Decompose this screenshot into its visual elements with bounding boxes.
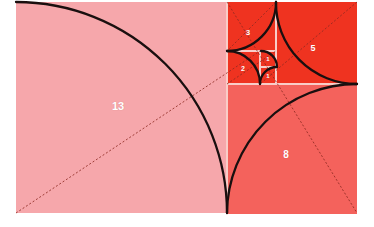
label-5: 5 [310, 44, 315, 53]
label-8: 8 [283, 150, 289, 160]
square-fills [16, 2, 357, 214]
label-13: 13 [112, 101, 124, 112]
square-5-lower-strip [276, 51, 357, 84]
label-2: 2 [241, 65, 245, 72]
fibonacci-svg [0, 0, 374, 227]
square-8 [227, 84, 357, 214]
label-3: 3 [246, 29, 250, 37]
label-1-lower: 1 [266, 73, 269, 79]
fibonacci-diagram: 13 8 5 3 2 1 1 [0, 0, 374, 227]
label-1-upper: 1 [266, 56, 269, 62]
